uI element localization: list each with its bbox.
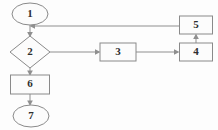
edge-6-to-7	[27, 94, 33, 106]
edge-3-to-4	[136, 49, 180, 55]
edge-2-to-3	[50, 49, 101, 55]
node-label-6: 6	[27, 77, 33, 89]
node-label-7: 7	[28, 109, 34, 121]
flowchart-canvas: 1 2 3 4 5 6 7	[0, 0, 218, 130]
edge-5-feedback-to-2	[30, 23, 180, 29]
node-label-5: 5	[193, 18, 199, 30]
node-process-4[interactable]: 4	[180, 43, 213, 61]
node-label-3: 3	[115, 45, 121, 57]
edge-4-to-5	[193, 34, 199, 44]
node-label-4: 4	[193, 45, 199, 57]
node-process-6[interactable]: 6	[11, 75, 50, 94]
node-process-3[interactable]: 3	[100, 43, 136, 61]
node-decision-2[interactable]: 2	[10, 36, 50, 68]
node-start-1[interactable]: 1	[12, 3, 48, 25]
node-process-5[interactable]: 5	[180, 16, 213, 34]
node-end-7[interactable]: 7	[13, 105, 49, 127]
node-label-1: 1	[27, 7, 33, 19]
node-label-2: 2	[27, 45, 33, 57]
